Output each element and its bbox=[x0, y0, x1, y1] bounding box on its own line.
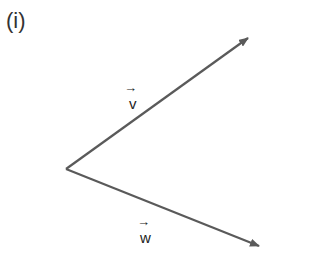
vector-w-arrow-icon: → bbox=[137, 214, 150, 229]
vector-v-line bbox=[66, 38, 248, 169]
vector-w-label: w bbox=[140, 229, 151, 246]
vector-v-label: v bbox=[129, 95, 137, 112]
vector-v-arrow-icon: → bbox=[124, 80, 137, 95]
vector-w-line bbox=[66, 169, 259, 246]
